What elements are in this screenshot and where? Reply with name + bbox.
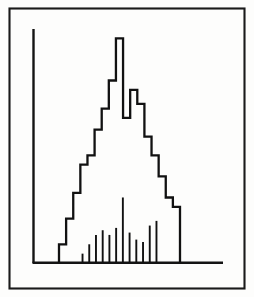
histogram-step-path xyxy=(59,38,180,263)
step-histogram-figure xyxy=(0,0,254,297)
outer-border-frame xyxy=(10,9,245,289)
figure-container xyxy=(0,0,254,297)
histogram-step-outline xyxy=(59,38,180,263)
impulse-spike-group xyxy=(83,197,157,263)
